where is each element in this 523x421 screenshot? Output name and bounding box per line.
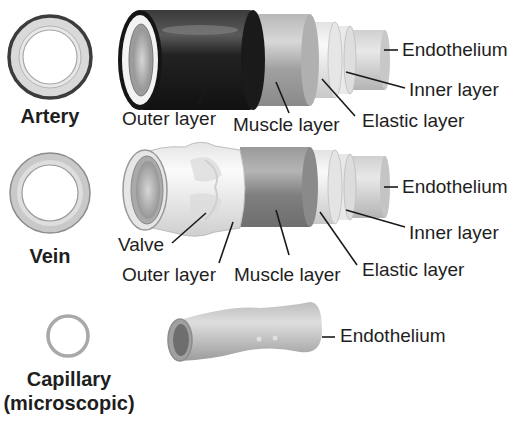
artery-tube — [118, 10, 390, 110]
artery-label-inner-layer: Inner layer — [409, 80, 499, 100]
vein-label-outer-layer: Outer layer — [122, 265, 216, 285]
artery-label-elastic-layer: Elastic layer — [362, 111, 464, 131]
vein-label-valve: Valve — [118, 235, 164, 255]
vein-label-inner-layer: Inner layer — [409, 223, 499, 243]
capillary-cross-section — [48, 316, 88, 356]
vein-cross-section — [10, 153, 90, 233]
artery-title: Artery — [4, 105, 96, 127]
vein-label-endothelium: Endothelium — [402, 177, 508, 197]
capillary-tube — [168, 302, 322, 361]
capillary-subtitle: (microscopic) — [0, 392, 138, 414]
capillary-label-endothelium: Endothelium — [340, 326, 446, 346]
vessel-illustrations — [0, 0, 523, 421]
capillary-title: Capillary — [0, 368, 138, 390]
artery-label-endothelium: Endothelium — [402, 40, 508, 60]
vein-tube — [123, 142, 390, 236]
artery-label-outer-layer: Outer layer — [122, 109, 216, 129]
vein-label-elastic-layer: Elastic layer — [362, 260, 464, 280]
artery-cross-section — [9, 16, 91, 98]
vein-label-muscle-layer: Muscle layer — [234, 265, 341, 285]
vein-title: Vein — [14, 245, 86, 267]
artery-label-muscle-layer: Muscle layer — [233, 115, 340, 135]
